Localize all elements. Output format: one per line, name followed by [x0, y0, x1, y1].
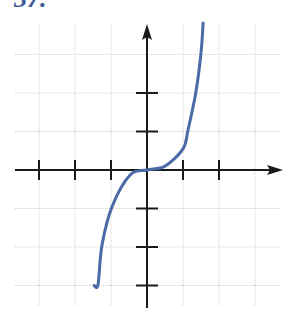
function-graph	[0, 0, 292, 325]
axes	[15, 24, 283, 308]
axis-ticks	[39, 93, 219, 286]
